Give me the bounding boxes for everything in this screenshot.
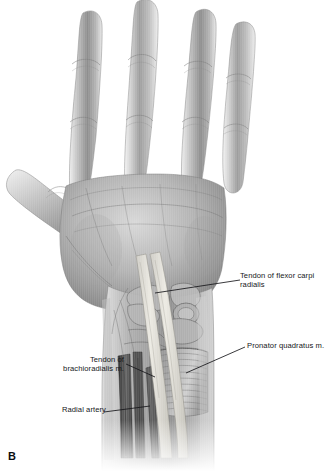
hand-group — [0, 0, 325, 471]
label-pronator-quadratus: Pronator quadratus m. — [247, 341, 325, 350]
label-tendon-of-flexor-carpi-radialis: Tendon of flexor carpi radialis — [240, 271, 325, 290]
panel-letter-b: B — [8, 450, 16, 462]
label-radial-artery: Radial artery — [0, 405, 106, 414]
label-tendon-of-brachioradialis: Tendon of brachioradialis m. — [0, 355, 124, 374]
hand-anatomy-illustration — [0, 0, 325, 471]
